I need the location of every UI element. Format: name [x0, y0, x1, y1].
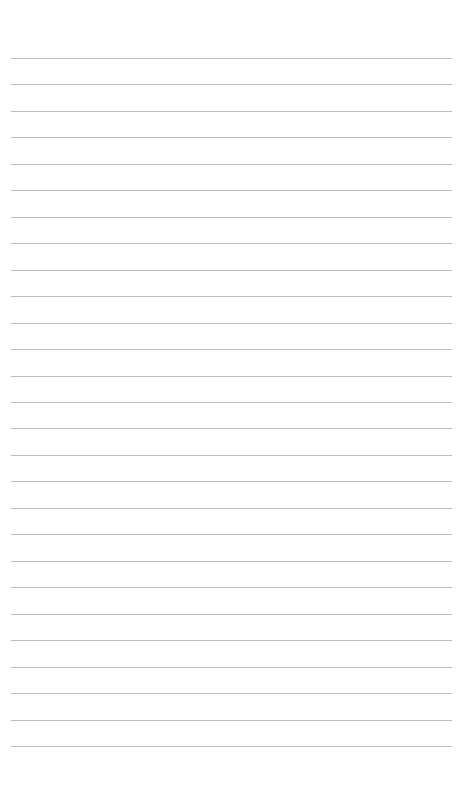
ruled-line — [11, 614, 452, 615]
ruled-line — [11, 693, 452, 694]
lined-paper-page — [0, 0, 470, 787]
ruled-line — [11, 323, 452, 324]
ruled-line — [11, 402, 452, 403]
ruled-line — [11, 270, 452, 271]
ruled-line — [11, 720, 452, 721]
ruled-line — [11, 640, 452, 641]
ruled-line — [11, 455, 452, 456]
ruled-line — [11, 667, 452, 668]
ruled-line — [11, 481, 452, 482]
ruled-line — [11, 428, 452, 429]
ruled-line — [11, 587, 452, 588]
ruled-line — [11, 137, 452, 138]
ruled-line — [11, 376, 452, 377]
ruled-line — [11, 349, 452, 350]
ruled-line — [11, 58, 452, 59]
ruled-line — [11, 561, 452, 562]
ruled-line — [11, 296, 452, 297]
ruled-line — [11, 534, 452, 535]
ruled-line — [11, 243, 452, 244]
ruled-line — [11, 164, 452, 165]
ruled-line — [11, 111, 452, 112]
ruled-line — [11, 746, 452, 747]
ruled-line — [11, 190, 452, 191]
ruled-line — [11, 84, 452, 85]
ruled-line — [11, 508, 452, 509]
ruled-line — [11, 217, 452, 218]
